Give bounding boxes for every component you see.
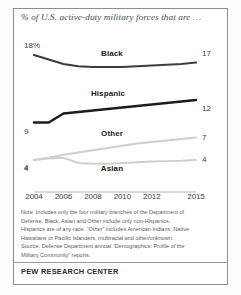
note-line-5: Military Community” reports. [21,251,220,260]
x-axis-tick-labels: 200420062008201020122015 [13,192,228,206]
series-label-asian: Asian [101,164,123,173]
x-tick-2004: 2004 [25,192,42,201]
start-value-asian: 4 [24,163,28,172]
series-label-hispanic: Hispanic [91,89,125,98]
chart-footer-brand: PEW RESEARCH CENTER [21,267,119,276]
chart-notes: Note: Includes only the four military br… [21,208,220,259]
x-tick-2008: 2008 [84,192,101,201]
chart-figure: % of U.S. active-duty military forces th… [0,0,241,295]
note-line-3: Hawaiians or Pacific Islanders, multirac… [21,234,220,243]
end-value-hispanic: 12 [202,104,211,113]
note-line-2: Hispanics are of any race. “Other” inclu… [21,225,220,234]
series-line-hispanic [34,100,196,123]
x-tick-2010: 2010 [114,192,131,201]
start-value-hispanic: 9 [24,127,28,136]
x-tick-2012: 2012 [143,192,160,201]
end-value-black: 17 [202,49,211,58]
note-line-4: Source: Defense Department annual “Demog… [21,242,220,251]
end-value-asian: 4 [202,155,206,164]
x-tick-2015: 2015 [187,192,204,201]
note-line-0: Note: Includes only the four military br… [21,208,220,217]
series-label-black: Black [101,49,123,58]
footer-divider [14,262,227,263]
series-line-asian [34,158,196,164]
series-line-other [34,138,196,161]
start-value-black: 18% [24,41,40,50]
end-value-other: 7 [202,133,206,142]
x-tick-2006: 2006 [55,192,72,201]
series-label-other: Other [101,129,123,138]
note-line-1: Defense. Black, Asian and Other include … [21,217,220,226]
